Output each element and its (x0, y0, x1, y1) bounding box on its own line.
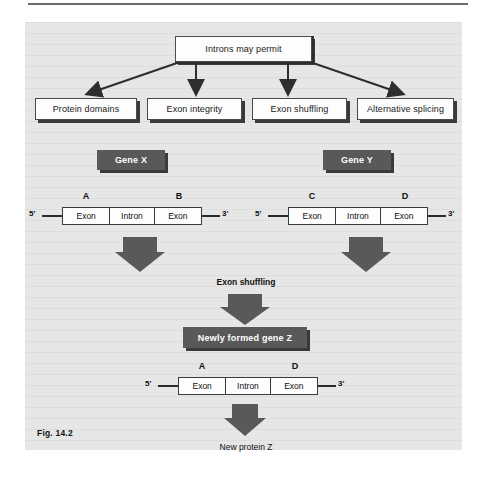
gene-y-tag-d: D (393, 191, 417, 201)
gene-y-segments: Exon Intron Exon (288, 207, 428, 225)
gene-z-five-prime-label: 5' (145, 379, 151, 388)
gene-y-exon-d: Exon (381, 208, 427, 224)
gene-z-right-tick (318, 385, 336, 387)
gene-z-tag-d: D (283, 361, 307, 371)
root-box-introns-may-permit: Introns may permit (175, 36, 312, 62)
gene-x-strand: 5' Exon Intron Exon 3' A B (29, 207, 229, 225)
branch-bus-line (175, 62, 314, 64)
branch-box-alternative-splicing: Alternative splicing (357, 98, 454, 120)
gene-x-three-prime-label: 3' (222, 209, 228, 218)
branch-box-exon-shuffling: Exon shuffling (252, 98, 347, 120)
gene-x-tag-a: A (74, 191, 98, 201)
branch-label-0: Protein domains (53, 104, 120, 114)
figure-panel: Introns may permit Protein domains Exon … (25, 22, 462, 450)
gene-z-intron: Intron (225, 378, 270, 394)
gene-y-tag-c: C (300, 191, 324, 201)
gene-x-right-tick (202, 215, 220, 217)
gene-x-five-prime-label: 5' (29, 209, 35, 218)
gene-y-title-box: Gene Y (323, 150, 391, 170)
gene-z-exon-a: Exon (179, 378, 225, 394)
gene-y-exon-c: Exon (289, 208, 335, 224)
gene-y-right-tick (428, 215, 446, 217)
gene-y-five-prime-label: 5' (255, 209, 261, 218)
gene-y-left-tick (268, 215, 288, 217)
block-arrow-from-gene-y (341, 237, 391, 272)
gene-z-segments: Exon Intron Exon (178, 377, 318, 395)
root-box-label: Introns may permit (205, 44, 281, 54)
gene-x-title-label: Gene X (115, 155, 147, 165)
block-arrow-from-gene-x (115, 237, 165, 272)
gene-x-tag-b: B (167, 191, 191, 201)
gene-z-exon-d: Exon (271, 378, 317, 394)
gene-x-exon-b: Exon (155, 208, 201, 224)
block-arrow-to-gene-z (220, 294, 270, 325)
gene-x-title-box: Gene X (97, 150, 165, 170)
branch-box-protein-domains: Protein domains (35, 98, 137, 120)
gene-z-left-tick (158, 385, 178, 387)
gene-y-intron: Intron (335, 208, 380, 224)
block-arrow-to-protein (224, 404, 266, 436)
gene-x-segments: Exon Intron Exon (62, 207, 202, 225)
branch-label-1: Exon integrity (167, 104, 223, 114)
gene-y-three-prime-label: 3' (448, 209, 454, 218)
new-protein-caption: New protein Z (210, 442, 282, 452)
page-top-rule (28, 3, 468, 5)
branch-bus-right-stub (312, 36, 314, 62)
gene-z-title-label: Newly formed gene Z (198, 333, 292, 343)
gene-x-exon-a: Exon (63, 208, 109, 224)
branch-label-3: Alternative splicing (367, 104, 444, 114)
gene-x-intron: Intron (109, 208, 154, 224)
figure-number-label: Fig. 14.2 (37, 428, 73, 438)
gene-y-strand: 5' Exon Intron Exon 3' C D (255, 207, 455, 225)
branch-label-2: Exon shuffling (271, 104, 329, 114)
gene-z-tag-a: A (190, 361, 214, 371)
branch-box-exon-integrity: Exon integrity (147, 98, 242, 120)
gene-y-title-label: Gene Y (341, 155, 373, 165)
gene-z-strand: 5' Exon Intron Exon 3' A D (145, 377, 345, 395)
exon-shuffling-caption: Exon shuffling (211, 277, 281, 287)
gene-x-left-tick (42, 215, 62, 217)
gene-z-three-prime-label: 3' (338, 379, 344, 388)
gene-z-title-box: Newly formed gene Z (183, 327, 307, 348)
